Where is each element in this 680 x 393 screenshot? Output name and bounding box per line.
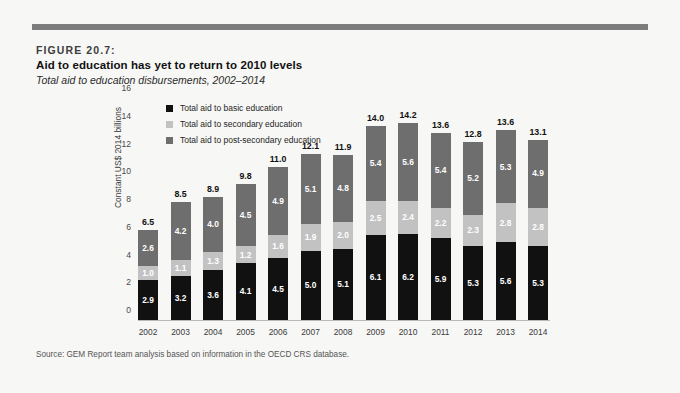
x-axis-tick: 2006 [269, 327, 288, 337]
bar-segment-post-secondary[interactable]: 5.3 [496, 130, 516, 204]
bar-segment-secondary[interactable]: 1.9 [301, 224, 321, 250]
chart-legend: Total aid to basic educationTotal aid to… [166, 100, 321, 148]
x-axis-tick: 2003 [171, 327, 190, 337]
bar-segment-post-secondary[interactable]: 5.2 [463, 142, 483, 214]
bar-segment-secondary[interactable]: 1.1 [171, 260, 191, 275]
x-axis-tick: 2012 [464, 327, 483, 337]
bar-segment-post-secondary[interactable]: 4.9 [268, 167, 288, 235]
bar-segment-label: 5.9 [435, 275, 447, 283]
bar-segment-basic[interactable]: 2.9 [138, 280, 158, 320]
bar-group[interactable]: 12.85.22.35.32012 [463, 142, 483, 320]
bar-segment-secondary[interactable]: 2.4 [398, 201, 418, 234]
bar-total-label: 9.8 [239, 171, 251, 181]
y-axis-tick: 0 [126, 305, 131, 315]
bar-segment-post-secondary[interactable]: 4.0 [203, 197, 223, 253]
bar-segment-label: 1.0 [142, 269, 154, 277]
legend-label: Total aid to basic education [180, 103, 283, 113]
bar-group[interactable]: 14.25.62.46.22010 [398, 123, 418, 320]
bar-segment-secondary[interactable]: 2.3 [463, 215, 483, 247]
source-note: Source: GEM Report team analysis based o… [36, 350, 349, 359]
bar-segment-basic[interactable]: 4.5 [268, 258, 288, 320]
bar-segment-label: 3.6 [207, 291, 219, 299]
x-axis-tick: 2010 [399, 327, 418, 337]
bar-segment-secondary[interactable]: 2.0 [333, 222, 353, 250]
bar-group[interactable]: 13.14.92.85.32014 [528, 140, 548, 320]
bar-segment-label: 5.3 [467, 279, 479, 287]
legend-swatch-icon [166, 121, 173, 128]
bar-group[interactable]: 6.52.61.02.92002 [138, 230, 158, 320]
bar-segment-secondary[interactable]: 2.8 [496, 203, 516, 242]
bar-group[interactable]: 8.54.21.13.22003 [171, 202, 191, 320]
bar-segment-post-secondary[interactable]: 5.1 [301, 154, 321, 225]
x-axis-tick: 2005 [236, 327, 255, 337]
top-rule [32, 24, 648, 30]
bar-segment-label: 5.4 [370, 159, 382, 167]
bar-segment-basic[interactable]: 5.3 [528, 246, 548, 320]
bar-segment-basic[interactable]: 5.6 [496, 242, 516, 320]
legend-label: Total aid to secondary education [180, 119, 302, 129]
bar-segment-basic[interactable]: 6.2 [398, 234, 418, 320]
bar-segment-basic[interactable]: 5.1 [333, 249, 353, 320]
legend-label: Total aid to post-secondary education [180, 135, 321, 145]
x-axis-tick: 2014 [529, 327, 548, 337]
bar-segment-label: 2.6 [142, 244, 154, 252]
bar-segment-post-secondary[interactable]: 5.6 [398, 123, 418, 201]
bar-group[interactable]: 13.65.32.85.62013 [496, 130, 516, 320]
x-axis-line [138, 320, 550, 321]
legend-item-basic[interactable]: Total aid to basic education [166, 100, 321, 116]
y-axis-tick: 2 [126, 277, 131, 287]
bar-segment-basic[interactable]: 6.1 [366, 235, 386, 320]
bar-segment-secondary[interactable]: 1.6 [268, 235, 288, 257]
bar-segment-post-secondary[interactable]: 4.5 [236, 184, 256, 246]
bar-segment-secondary[interactable]: 1.3 [203, 252, 223, 270]
bar-total-label: 11.0 [270, 154, 287, 164]
bar-segment-label: 2.9 [142, 296, 154, 304]
bar-segment-post-secondary[interactable]: 2.6 [138, 230, 158, 266]
bar-group[interactable]: 11.94.82.05.12008 [333, 155, 353, 320]
bar-group[interactable]: 14.05.42.56.12009 [366, 126, 386, 320]
bar-segment-label: 4.1 [240, 287, 252, 295]
bar-segment-secondary[interactable]: 1.0 [138, 266, 158, 280]
legend-swatch-icon [166, 105, 173, 112]
x-axis-tick: 2007 [301, 327, 320, 337]
bar-segment-basic[interactable]: 5.0 [301, 251, 321, 320]
bar-group[interactable]: 12.15.11.95.02007 [301, 154, 321, 320]
legend-item-secondary[interactable]: Total aid to secondary education [166, 116, 321, 132]
bar-segment-label: 5.2 [467, 174, 479, 182]
bar-segment-post-secondary[interactable]: 4.8 [333, 155, 353, 222]
bar-segment-secondary[interactable]: 2.5 [366, 201, 386, 236]
y-axis-tick: 10 [121, 166, 131, 176]
bar-segment-label: 4.5 [240, 211, 252, 219]
bar-segment-post-secondary[interactable]: 4.9 [528, 140, 548, 208]
bar-segment-basic[interactable]: 3.2 [171, 276, 191, 320]
bar-segment-label: 1.1 [175, 264, 187, 272]
bar-group[interactable]: 9.84.51.24.12005 [236, 184, 256, 320]
bar-segment-label: 5.6 [402, 158, 414, 166]
bar-segment-label: 1.3 [207, 257, 219, 265]
bar-segment-basic[interactable]: 5.9 [431, 238, 451, 320]
bar-group[interactable]: 13.65.42.25.92011 [431, 133, 451, 320]
bar-segment-secondary[interactable]: 2.8 [528, 208, 548, 247]
bar-segment-basic[interactable]: 4.1 [236, 263, 256, 320]
y-axis-tick: 4 [126, 250, 131, 260]
bar-segment-post-secondary[interactable]: 5.4 [431, 133, 451, 208]
bar-segment-label: 2.0 [337, 231, 349, 239]
bar-segment-basic[interactable]: 3.6 [203, 270, 223, 320]
legend-item-post-secondary[interactable]: Total aid to post-secondary education [166, 132, 321, 148]
bar-segment-basic[interactable]: 5.3 [463, 246, 483, 320]
bar-segment-label: 1.9 [305, 233, 317, 241]
figure-number: FIGURE 20.7: [36, 44, 116, 56]
bar-segment-secondary[interactable]: 1.2 [236, 246, 256, 263]
bar-segment-label: 5.4 [435, 166, 447, 174]
bar-segment-label: 6.1 [370, 273, 382, 281]
bar-segment-post-secondary[interactable]: 4.2 [171, 202, 191, 260]
bar-segment-label: 2.8 [532, 223, 544, 231]
bar-segment-label: 2.4 [402, 213, 414, 221]
bar-total-label: 14.0 [367, 113, 384, 123]
bar-segment-post-secondary[interactable]: 5.4 [366, 126, 386, 201]
bar-group[interactable]: 11.04.91.64.52006 [268, 167, 288, 320]
bar-segment-label: 3.2 [175, 294, 187, 302]
bar-segment-secondary[interactable]: 2.2 [431, 208, 451, 239]
x-axis-tick: 2009 [366, 327, 385, 337]
bar-group[interactable]: 8.94.01.33.62004 [203, 197, 223, 320]
